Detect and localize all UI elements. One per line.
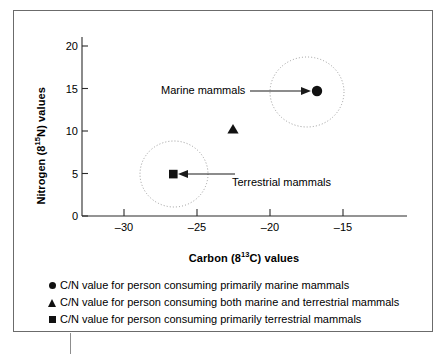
marine-mammals-point <box>312 86 322 96</box>
y-axis-title: Nitrogen (815N) values <box>33 76 47 216</box>
circle-marker-icon <box>44 277 60 294</box>
y-tick-label-20: 20 <box>52 40 78 52</box>
y-axis-title-pre: Nitrogen (8 <box>35 145 47 204</box>
y-tick-label-0: 0 <box>52 210 78 222</box>
triangle-marker-icon <box>44 294 60 311</box>
legend-item-marine: C/N value for person consuming primarily… <box>44 277 438 294</box>
x-axis-title-post: C) values <box>249 252 299 264</box>
terrestrial-mammals-arrow <box>178 170 235 178</box>
x-axis-title-pre: Carbon (8 <box>189 252 241 264</box>
terrestrial-mammals-point <box>169 170 178 179</box>
mixed-diet-point <box>227 124 238 134</box>
legend-item-terrestrial: C/N value for person consuming primarily… <box>44 311 438 328</box>
y-axis-title-post: N) values <box>35 87 47 137</box>
legend: C/N value for person consuming primarily… <box>44 277 438 328</box>
y-axis-ticks <box>82 46 88 216</box>
y-axis-title-superscript: 15 <box>33 137 42 146</box>
square-marker-icon <box>44 311 60 328</box>
legend-item-terrestrial-label: C/N value for person consuming primarily… <box>60 311 361 328</box>
x-axis-ticks <box>124 209 343 216</box>
legend-item-mixed-label: C/N value for person consuming both mari… <box>60 294 399 311</box>
x-tick-label-minus30: –30 <box>107 221 141 233</box>
terrestrial-mammals-annotation-label: Terrestrial mammals <box>232 176 331 188</box>
y-tick-label-10: 10 <box>52 125 78 137</box>
y-tick-label-5: 5 <box>52 168 78 180</box>
figure-frame: 20 15 10 5 0 –30 –25 –20 –15 Nitrogen (8… <box>13 10 433 332</box>
y-tick-label-15: 15 <box>52 83 78 95</box>
terrestrial-mammals-ellipse <box>140 141 208 207</box>
page-rule-vertical <box>70 333 71 354</box>
legend-item-marine-label: C/N value for person consuming primarily… <box>60 277 349 294</box>
x-axis-title: Carbon (813C) values <box>134 250 354 264</box>
marine-mammals-annotation-label: Marine mammals <box>161 84 245 96</box>
marine-mammals-ellipse <box>270 57 344 127</box>
marine-mammals-arrow <box>250 87 311 95</box>
x-tick-label-minus25: –25 <box>180 221 214 233</box>
legend-item-mixed: C/N value for person consuming both mari… <box>44 294 438 311</box>
x-tick-label-minus20: –20 <box>253 221 287 233</box>
x-tick-label-minus15: –15 <box>326 221 360 233</box>
